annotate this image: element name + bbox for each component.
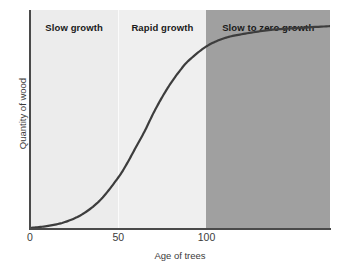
y-axis-line (29, 10, 31, 229)
x-axis-line (29, 228, 331, 230)
x-tick-label-50: 50 (103, 231, 133, 243)
plot-area: Slow growth Rapid growth Slow to zero gr… (30, 10, 330, 228)
x-tick-label-100: 100 (191, 231, 221, 243)
growth-curve-line (30, 10, 330, 228)
x-tick-label-0: 0 (15, 231, 45, 243)
y-axis-title: Quantity of wood (17, 34, 28, 194)
growth-curve-figure: Slow growth Rapid growth Slow to zero gr… (0, 0, 341, 270)
x-axis-title: Age of trees (30, 250, 330, 261)
